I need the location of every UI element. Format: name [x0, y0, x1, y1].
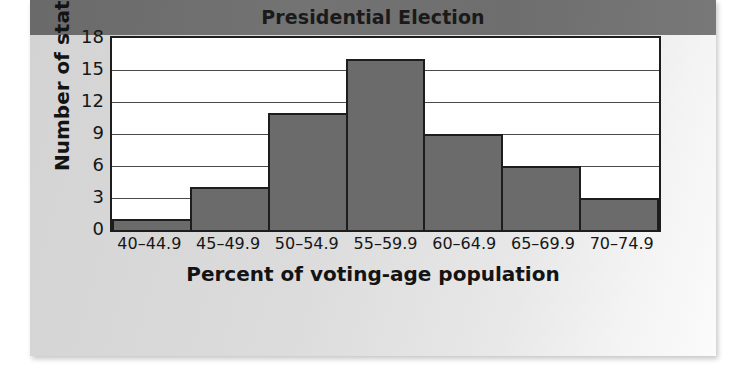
- y-axis-tick-label: 0: [56, 218, 104, 239]
- x-axis-tick-label: 65–69.9: [504, 234, 583, 253]
- y-axis-tick-label: 6: [56, 154, 104, 175]
- plot-area: [110, 36, 661, 232]
- chart-figure: Presidential Election Number of states 0…: [30, 0, 716, 356]
- bar: [579, 198, 659, 230]
- bar: [112, 219, 192, 230]
- x-axis-tick-label: 70–74.9: [582, 234, 661, 253]
- chart-title-band: Presidential Election: [30, 0, 716, 35]
- y-axis-tick-label: 15: [56, 58, 104, 79]
- bar: [501, 166, 581, 230]
- y-axis-tick-label: 9: [56, 122, 104, 143]
- y-axis-tick-label: 12: [56, 90, 104, 111]
- x-axis-title: Percent of voting-age population: [30, 262, 716, 286]
- y-axis-tick-label: 3: [56, 186, 104, 207]
- bar: [346, 59, 426, 230]
- bar: [190, 187, 270, 230]
- x-axis-tick-label: 55–59.9: [346, 234, 425, 253]
- bar-series: [112, 38, 659, 230]
- bar: [423, 134, 503, 230]
- x-axis-tick-label: 50–54.9: [267, 234, 346, 253]
- x-axis-tick-labels: 40–44.945–49.950–54.955–59.960–64.965–69…: [110, 234, 661, 253]
- chart-title: Presidential Election: [30, 0, 716, 35]
- x-axis-tick-label: 40–44.9: [110, 234, 189, 253]
- x-axis-tick-label: 60–64.9: [425, 234, 504, 253]
- y-axis-tick-labels: 0369121518: [56, 36, 104, 228]
- x-axis-tick-label: 45–49.9: [189, 234, 268, 253]
- y-axis-tick-label: 18: [56, 26, 104, 47]
- bar: [268, 113, 348, 230]
